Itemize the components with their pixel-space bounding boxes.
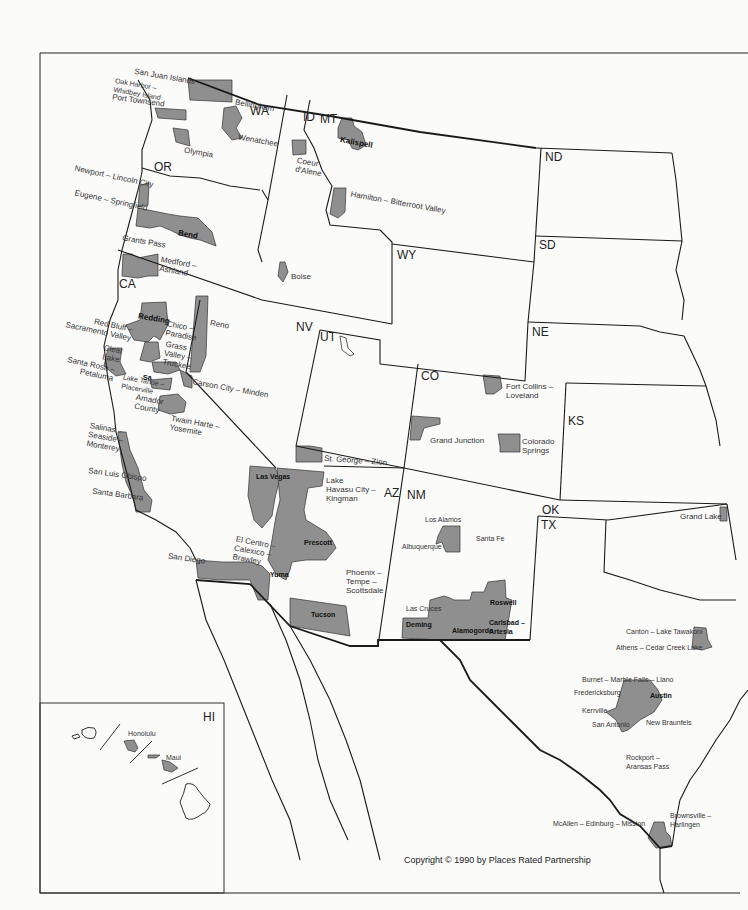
label-clear-lake: Clear Lake — [102, 343, 124, 364]
label-deming: Deming — [406, 620, 432, 629]
area-hamilton — [330, 188, 346, 218]
label-canton: Canton – Lake Tawakoni — [626, 627, 703, 636]
shaded-places — [104, 80, 727, 848]
state-label-or: OR — [154, 160, 172, 174]
copyright-notice: Copyright © 1990 by Places Rated Partner… — [404, 855, 591, 865]
label-burnet: Burnet – Marble Falls – Llano — [582, 675, 673, 684]
label-phoenix: Phoenix – Tempe – Scottsdale — [346, 568, 383, 595]
label-maui: Maui — [166, 753, 181, 762]
label-honolulu: Honolulu — [128, 729, 156, 738]
label-fort-collins: Fort Collins – Loveland — [506, 382, 553, 400]
state-label-ks: KS — [568, 414, 584, 428]
label-brownsville: Brownsville – Harlingen — [670, 811, 711, 829]
state-label-hi: HI — [203, 710, 215, 724]
label-prescott: Prescott — [304, 538, 332, 547]
state-label-az: AZ — [384, 486, 399, 500]
state-label-ut: UT — [320, 330, 336, 344]
label-boise: Boise — [291, 272, 311, 281]
state-label-mt: MT — [320, 112, 337, 126]
label-kerrville: Kerrville — [582, 706, 607, 715]
label-alamogordo: Alamogordo — [452, 626, 493, 635]
label-colorado-springs: Colorado Springs — [522, 437, 554, 455]
label-austin: Austin — [650, 691, 672, 700]
label-albuquerque: Albuquerque — [402, 542, 442, 551]
area-boise — [278, 262, 288, 282]
label-san-antonio: San Antonio — [592, 720, 630, 729]
area-chico-grass — [140, 342, 160, 362]
western-us-map — [0, 0, 748, 910]
great-salt-lake — [340, 336, 354, 356]
area-mcallen-brownsville — [648, 822, 672, 848]
area-honolulu — [124, 740, 138, 752]
label-mcallen: McAllen – Edinburg – Mission — [553, 819, 645, 828]
label-santa-fe: Santa Fe — [476, 534, 504, 543]
state-label-id: ID — [303, 110, 315, 124]
state-label-ca: CA — [119, 277, 136, 291]
label-los-alamos: Los Alamos — [425, 515, 461, 524]
state-label-co: CO — [421, 369, 439, 383]
area-coeur-dalene — [292, 140, 306, 155]
label-new-braunfels: New Braunfels — [646, 718, 692, 727]
label-las-cruces: Las Cruces — [406, 604, 441, 613]
state-label-wy: WY — [397, 248, 416, 262]
state-label-nm: NM — [407, 488, 426, 502]
state-label-sd: SD — [539, 238, 556, 252]
area-port-townsend — [155, 108, 186, 120]
state-label-tx: TX — [541, 518, 556, 532]
state-label-nv: NV — [296, 320, 313, 334]
label-carlsbad: Carlsbad – Artesia — [489, 618, 525, 636]
label-havasu: Lake Havasu City – Kingman — [326, 476, 376, 503]
label-grand-lake: Grand Lake — [680, 512, 722, 521]
label-grand-junction: Grand Junction — [430, 436, 484, 445]
state-label-ok: OK — [542, 503, 559, 517]
label-grass-valley: Grass Valley – Truckee — [162, 340, 195, 372]
label-yuma: Yuma — [270, 570, 289, 579]
label-athens: Athens – Cedar Creek Lake — [616, 643, 702, 652]
label-roswell: Roswell — [490, 598, 516, 607]
state-label-ne: NE — [532, 325, 549, 339]
area-olympia — [173, 128, 190, 146]
label-tucson: Tucson — [311, 610, 335, 619]
label-fredericksburg: Fredericksburg — [574, 688, 621, 697]
label-las-vegas: Las Vegas — [256, 472, 290, 481]
label-rockport: Rockport – Aransas Pass — [626, 753, 669, 771]
area-maui-molokai — [148, 755, 160, 758]
state-label-nd: ND — [545, 150, 562, 164]
area-colorado-springs — [498, 434, 520, 452]
